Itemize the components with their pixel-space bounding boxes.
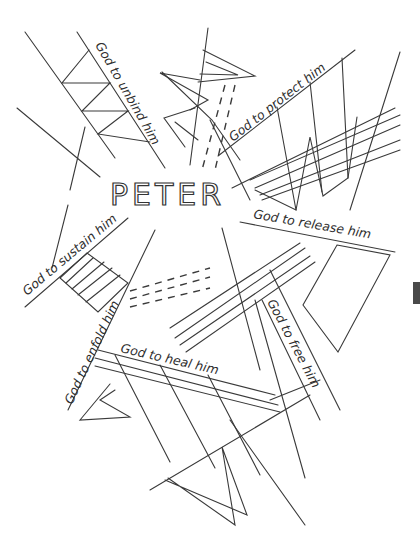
heal-shape (80, 300, 310, 525)
line-drawing: God to unbind him God to protect him God… (0, 0, 420, 536)
prayer-sustain: God to sustain him (19, 211, 119, 298)
prayer-unbind: God to unbind him (92, 39, 163, 147)
edge-mark (413, 282, 420, 304)
title-peter: PETER (110, 177, 225, 212)
unbind-shape (25, 32, 165, 168)
prayer-enfold: God to enfold him (61, 298, 122, 406)
prayer-free: God to free him (264, 296, 323, 390)
prayer-protect: God to protect him (226, 60, 329, 145)
center-triangles (160, 28, 255, 200)
